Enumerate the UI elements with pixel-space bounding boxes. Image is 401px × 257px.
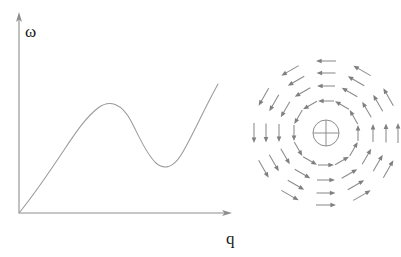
vortex-arrow-head-icon	[318, 99, 324, 104]
vortex-arrow-shaft	[364, 105, 371, 117]
vortex-arrow-shaft	[296, 110, 302, 120]
vortex-arrow-shaft	[269, 155, 277, 168]
vortex-arrow-shaft	[350, 146, 356, 156]
figure-canvas: ω q	[0, 0, 401, 257]
vortex-arrow-head-icon	[384, 124, 389, 130]
vortex-arrow-shaft	[303, 157, 313, 163]
vortex-arrow-shaft	[345, 90, 357, 97]
vortex-arrow-head-icon	[317, 84, 323, 89]
y-axis	[16, 12, 22, 213]
x-axis	[19, 210, 232, 216]
vortex-arrow-shaft	[294, 142, 300, 152]
vortex-core	[313, 120, 339, 146]
vortex-field	[252, 59, 401, 208]
vortex-arrow-head-icon	[252, 137, 257, 143]
vortex-arrow-shaft	[339, 103, 349, 109]
vortex-arrow-shaft	[342, 171, 354, 178]
dispersion-plot: ω q	[16, 12, 235, 248]
vortex-arrow-shaft	[291, 76, 304, 84]
vortex-arrow-head-icon	[396, 123, 401, 129]
vortex-arrow-head-icon	[316, 59, 322, 64]
vortex-arrow-shaft	[261, 88, 269, 102]
vortex-arrow-head-icon	[329, 178, 335, 183]
vortex-arrow-head-icon	[330, 191, 336, 196]
vortex-arrow-head-icon	[264, 137, 269, 143]
vortex-arrow-head-icon	[330, 203, 336, 208]
vortex-arrow-shaft	[259, 160, 267, 174]
vortex-arrow-head-icon	[292, 135, 297, 141]
vortex-arrow-head-icon	[328, 163, 334, 168]
vortex-arrow-shaft	[307, 101, 317, 107]
vortex-arrow-shaft	[385, 92, 393, 106]
vortex-arrow-shaft	[352, 114, 358, 124]
vortex-arrow-head-icon	[317, 71, 323, 76]
vortex-arrow-head-icon	[371, 124, 376, 130]
vortex-arrow-shaft	[295, 169, 307, 176]
vortex-arrow-shaft	[288, 180, 301, 188]
vortex-arrow-shaft	[362, 152, 369, 164]
vortex-arrow-shaft	[285, 66, 299, 74]
vortex-arrow-shaft	[348, 182, 361, 190]
vortex-arrow-shaft	[375, 98, 383, 111]
vortex-arrow-head-icon	[277, 136, 282, 142]
y-axis-label: ω	[25, 22, 36, 41]
vortex-arrow-shaft	[335, 159, 345, 165]
figure-root: ω q	[0, 0, 401, 257]
vortex-arrow-shaft	[351, 78, 364, 86]
vortex-arrow-shaft	[281, 149, 288, 161]
vortex-arrow-shaft	[383, 164, 391, 178]
vortex-arrow-shaft	[281, 190, 295, 198]
x-axis-label: q	[226, 229, 235, 248]
vortex-arrow-shaft	[298, 88, 310, 95]
vortex-arrow-head-icon	[356, 125, 361, 131]
vortex-arrow-shaft	[271, 95, 279, 108]
vortex-arrow-shaft	[283, 102, 290, 114]
dispersion-curve	[19, 84, 218, 213]
vortex-arrow-shaft	[353, 192, 367, 200]
vortex-arrow-shaft	[373, 158, 381, 171]
vortex-arrow-shaft	[357, 68, 371, 76]
